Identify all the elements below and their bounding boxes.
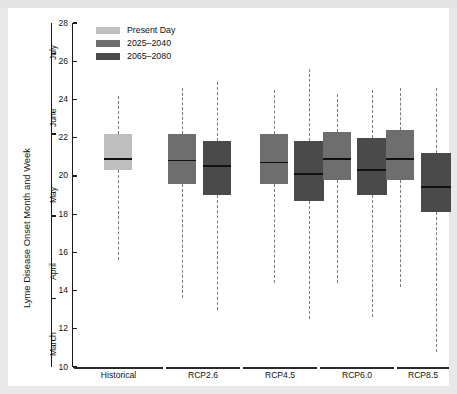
y-axis-tick-label: 22 (48, 133, 68, 142)
y-axis-tick-label: 20 (48, 171, 68, 180)
group-axis-segment (166, 367, 240, 369)
legend-swatch-icon (96, 53, 120, 60)
boxplot-box[interactable] (104, 134, 132, 170)
y-axis-tick-label: 28 (48, 19, 68, 28)
boxplot-median-line (294, 173, 324, 175)
y-axis-tick-label: 24 (48, 95, 68, 104)
box-whisker-upper (182, 88, 183, 134)
month-axis-tick (52, 215, 56, 216)
boxplot-box[interactable] (260, 134, 288, 184)
y-axis-tick (73, 328, 77, 329)
boxplot-median-line (104, 158, 132, 160)
box-whisker-upper (118, 96, 119, 134)
month-axis-tick (52, 133, 56, 134)
y-axis-tick (73, 214, 77, 215)
box-whisker-lower (182, 184, 183, 299)
box-whisker-lower (274, 184, 275, 283)
box-whisker-lower (436, 212, 437, 352)
group-axis-segment (320, 367, 394, 369)
month-axis-label: March (49, 333, 58, 357)
legend-item[interactable]: Present Day (96, 24, 175, 36)
month-axis-label: July (49, 45, 58, 60)
box-whisker-lower (337, 180, 338, 283)
box-whisker-upper (217, 82, 218, 141)
box-whisker-upper (436, 88, 437, 153)
x-axis-group-label: RCP4.5 (243, 371, 317, 380)
month-axis-tick (52, 298, 56, 299)
boxplot-median-line (203, 165, 231, 167)
boxplot-box[interactable] (386, 130, 414, 180)
top-background-strip (0, 0, 457, 8)
box-whisker-lower (309, 201, 310, 319)
boxplot-box[interactable] (323, 132, 351, 180)
boxplot-box[interactable] (294, 141, 324, 200)
boxplot-median-line (421, 186, 451, 188)
x-axis-group-label: RCP8.5 (397, 371, 449, 380)
legend-item[interactable]: 2065–2080 (96, 50, 175, 62)
value-axis-line (72, 23, 73, 367)
y-axis-tick (73, 99, 77, 100)
box-whisker-lower (217, 195, 218, 310)
boxplot-median-line (168, 160, 196, 162)
box-whisker-lower (118, 170, 119, 260)
box-whisker-upper (372, 90, 373, 138)
box-whisker-upper (309, 69, 310, 142)
boxplot-median-line (260, 162, 288, 164)
y-axis-tick (73, 22, 77, 23)
chart-legend: Present Day2025–20402065–2080 (96, 24, 175, 63)
legend-item-label: Present Day (127, 26, 175, 35)
box-whisker-lower (372, 195, 373, 317)
legend-item-label: 2065–2080 (127, 52, 171, 61)
x-axis-group-label: RCP6.0 (320, 371, 394, 380)
group-axis-segment (74, 367, 163, 369)
y-axis-tick-label: 18 (48, 210, 68, 219)
legend-item[interactable]: 2025–2040 (96, 37, 175, 49)
y-axis-tick (73, 137, 77, 138)
boxplot-box[interactable] (168, 134, 196, 184)
box-whisker-upper (400, 88, 401, 130)
month-axis-label: April (49, 263, 58, 280)
month-axis-label: June (49, 109, 58, 127)
group-axis-segment (243, 367, 317, 369)
boxplot-box[interactable] (357, 138, 387, 195)
group-axis-segment (397, 367, 449, 369)
legend-swatch-icon (96, 27, 120, 34)
box-whisker-upper (274, 90, 275, 134)
y-axis-tick-label: 10 (48, 363, 68, 372)
y-axis-tick (73, 175, 77, 176)
boxplot-box[interactable] (203, 141, 231, 195)
chart-figure: Lyme Disease Onset Month and Week 101214… (8, 8, 449, 386)
y-axis-tick-label: 16 (48, 248, 68, 257)
box-whisker-upper (337, 94, 338, 132)
x-axis-group-label: RCP2.6 (166, 371, 240, 380)
y-axis-tick (73, 61, 77, 62)
y-axis-tick-label: 14 (48, 286, 68, 295)
boxplot-median-line (323, 158, 351, 160)
y-axis-tick (73, 290, 77, 291)
plot-area: Lyme Disease Onset Month and Week 101214… (8, 8, 449, 386)
boxplot-box[interactable] (421, 153, 451, 212)
y-axis-title: Lyme Disease Onset Month and Week (22, 148, 31, 308)
boxplot-median-line (357, 169, 387, 171)
month-axis-label: May (49, 187, 58, 203)
box-whisker-lower (400, 180, 401, 287)
legend-swatch-icon (96, 40, 120, 47)
x-axis-group-label: Historical (74, 371, 163, 380)
y-axis-tick (73, 252, 77, 253)
boxplot-median-line (386, 158, 414, 160)
legend-item-label: 2025–2040 (127, 39, 171, 48)
